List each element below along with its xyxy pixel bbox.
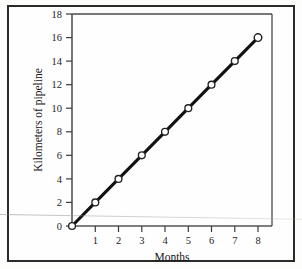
x-tick-label: 5 xyxy=(186,235,191,246)
y-tick-label: 0 xyxy=(57,221,62,232)
data-point xyxy=(69,223,76,230)
x-tick-label: 8 xyxy=(255,235,260,246)
data-point-markers xyxy=(69,34,262,230)
y-axis-ticks xyxy=(66,14,72,226)
data-point xyxy=(254,34,262,42)
y-tick-label: 16 xyxy=(52,32,63,43)
x-tick-label: 6 xyxy=(209,235,214,246)
y-tick-label: 2 xyxy=(57,197,62,208)
data-point xyxy=(138,152,145,159)
data-point xyxy=(185,105,192,112)
y-tick-label: 10 xyxy=(52,103,63,114)
x-tick-label: 2 xyxy=(116,235,121,246)
data-point xyxy=(231,58,238,65)
y-tick-label: 8 xyxy=(57,126,62,137)
x-tick-label: 7 xyxy=(232,235,237,246)
x-axis-ticks xyxy=(95,226,258,232)
line-chart: 0 2 4 6 8 10 12 14 16 18 xyxy=(0,0,302,269)
plot-svg: 0 2 4 6 8 10 12 14 16 18 xyxy=(0,0,302,269)
data-point xyxy=(162,128,169,135)
x-tick-label: 3 xyxy=(139,235,144,246)
y-tick-label: 12 xyxy=(52,79,63,90)
x-tick-label: 4 xyxy=(162,235,168,246)
data-point xyxy=(92,199,99,206)
data-point xyxy=(115,176,122,183)
data-point xyxy=(208,81,215,88)
y-tick-label: 14 xyxy=(52,56,63,67)
x-tick-label: 1 xyxy=(93,235,98,246)
y-tick-labels: 0 2 4 6 8 10 12 14 16 18 xyxy=(52,9,63,232)
y-tick-label: 6 xyxy=(57,150,62,161)
y-tick-label: 4 xyxy=(57,174,63,185)
y-axis-title: Kilometers of pipeline xyxy=(32,68,45,171)
x-axis-title: Months xyxy=(154,251,190,263)
y-tick-label: 18 xyxy=(52,9,63,20)
x-tick-labels: 1 2 3 4 5 6 7 8 xyxy=(93,235,261,246)
figure-page: 0 2 4 6 8 10 12 14 16 18 xyxy=(0,0,302,269)
